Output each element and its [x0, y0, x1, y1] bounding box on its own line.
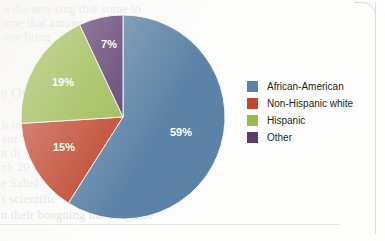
pie-slice-value-label: 7% [101, 38, 117, 50]
card-bottom-edge [0, 224, 340, 225]
pie-slice-value-label: 15% [53, 141, 75, 153]
pie-slice-group [21, 15, 225, 219]
chart-legend: African-American Non-Hispanic white Hisp… [247, 78, 375, 146]
legend-swatch-icon [247, 81, 258, 92]
legend-swatch-icon [247, 98, 258, 109]
legend-item-other[interactable]: Other [247, 129, 375, 146]
pie-slice-value-label: 19% [52, 76, 74, 88]
legend-swatch-icon [247, 132, 258, 143]
legend-label: African-American [267, 81, 344, 92]
card-right-edge [375, 2, 376, 234]
legend-label: Other [267, 132, 292, 143]
legend-item-non-hispanic-white[interactable]: Non-Hispanic white [247, 95, 375, 112]
pie-chart-svg: 59%15%19%7% [20, 14, 226, 220]
legend-swatch-icon [247, 115, 258, 126]
pie-slice-value-label: 59% [170, 126, 192, 138]
legend-label: Hispanic [267, 115, 305, 126]
pie-chart: 59%15%19%7% [20, 14, 226, 220]
screenshot-root: a dia non-ring that some to ome that amo… [0, 0, 385, 241]
legend-item-hispanic[interactable]: Hispanic [247, 112, 375, 129]
legend-label: Non-Hispanic white [267, 98, 353, 109]
card-corner-edge [354, 2, 376, 24]
legend-item-african-american[interactable]: African-American [247, 78, 375, 95]
